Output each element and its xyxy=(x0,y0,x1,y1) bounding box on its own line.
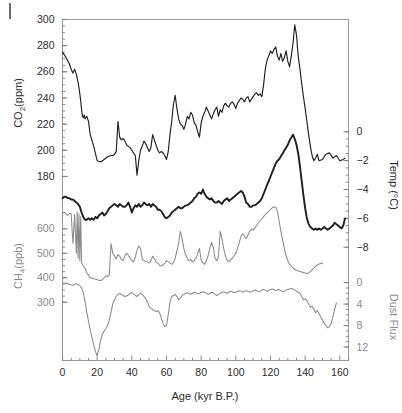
temp-axis-tick-labels: 0−2−4−6−8 xyxy=(357,125,369,252)
svg-text:120: 120 xyxy=(262,366,280,378)
svg-text:240: 240 xyxy=(37,92,55,104)
x-axis-ticks xyxy=(63,356,349,361)
svg-text:4: 4 xyxy=(357,298,363,310)
figure-canvas: 020406080100120140160 180200220240260280… xyxy=(0,0,402,413)
svg-text:140: 140 xyxy=(296,366,314,378)
svg-text:200: 200 xyxy=(37,144,55,156)
svg-text:0: 0 xyxy=(60,366,66,378)
plot-frame xyxy=(63,20,349,361)
x-axis-title: Age (kyr B.P.) xyxy=(171,390,238,402)
svg-text:−4: −4 xyxy=(357,183,369,195)
co2-axis-title-main: CO xyxy=(12,111,24,128)
co2-axis-title: CO2(ppm) xyxy=(12,78,27,128)
dust-axis-ticks xyxy=(344,283,349,348)
co2-axis-tick-labels: 180200220240260280300 xyxy=(37,13,55,182)
series-line-ch4 xyxy=(63,207,323,281)
svg-text:−8: −8 xyxy=(357,241,369,253)
x-axis-tick-labels: 020406080100120140160 xyxy=(60,366,349,378)
dust-axis-tick-labels: 04812 xyxy=(357,276,369,353)
ch4-axis-title-main: CH xyxy=(12,273,24,289)
svg-text:220: 220 xyxy=(37,118,55,130)
co2-axis-title-tail: (ppm) xyxy=(12,78,24,107)
dust-axis-title: Dust Flux xyxy=(388,294,400,341)
svg-text:280: 280 xyxy=(37,39,55,51)
svg-text:180: 180 xyxy=(37,170,55,182)
temp-axis-ticks xyxy=(344,132,349,247)
ch4-axis-ticks xyxy=(63,229,68,302)
svg-text:300: 300 xyxy=(37,13,55,25)
svg-text:400: 400 xyxy=(37,271,55,283)
series-line-co2 xyxy=(63,25,346,175)
series-line-temp xyxy=(63,135,346,230)
co2-axis-ticks xyxy=(63,20,68,177)
svg-text:100: 100 xyxy=(227,366,245,378)
paleoclimate-multi-axis-chart: 020406080100120140160 180200220240260280… xyxy=(0,0,402,413)
svg-text:0: 0 xyxy=(357,276,363,288)
ch4-axis-tick-labels: 300400500600 xyxy=(37,222,55,307)
svg-text:160: 160 xyxy=(331,366,349,378)
svg-text:−6: −6 xyxy=(357,212,369,224)
svg-text:12: 12 xyxy=(357,341,369,353)
temp-axis-title: Temp (°C) xyxy=(388,160,400,210)
svg-text:260: 260 xyxy=(37,65,55,77)
svg-text:8: 8 xyxy=(357,319,363,331)
ch4-axis-title-tail: (ppb) xyxy=(12,243,24,269)
svg-text:40: 40 xyxy=(126,366,138,378)
svg-text:60: 60 xyxy=(161,366,173,378)
svg-text:600: 600 xyxy=(37,222,55,234)
svg-text:500: 500 xyxy=(37,247,55,259)
series-line-dust xyxy=(63,283,337,356)
svg-text:0: 0 xyxy=(357,125,363,137)
svg-text:−2: −2 xyxy=(357,154,369,166)
ch4-axis-title: CH4(ppb) xyxy=(12,243,27,289)
svg-text:20: 20 xyxy=(91,366,103,378)
svg-text:300: 300 xyxy=(37,296,55,308)
svg-text:80: 80 xyxy=(195,366,207,378)
